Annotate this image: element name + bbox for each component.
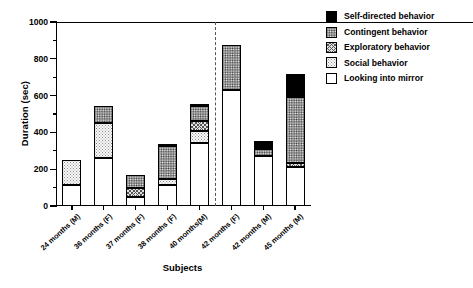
bar-stack xyxy=(94,106,113,206)
bar-segment-social-behavior xyxy=(190,131,209,144)
bar-segment-looking-into-mirror xyxy=(190,143,209,206)
bar-segment-looking-into-mirror xyxy=(94,158,113,206)
legend-item-label: Social behavior xyxy=(344,59,408,68)
bar-segment-social-behavior xyxy=(62,160,81,185)
bar-segment-looking-into-mirror xyxy=(126,197,145,206)
x-axis-tick xyxy=(167,206,168,210)
swatch-social xyxy=(326,57,337,68)
x-axis-tick xyxy=(231,206,232,210)
bar-stack xyxy=(126,175,145,206)
bar-stack xyxy=(222,45,241,206)
bar-segment-looking-into-mirror xyxy=(62,185,81,206)
x-axis-tick xyxy=(263,206,264,210)
bar-segment-contingent-behavior xyxy=(126,175,145,188)
swatch-looking-into-mirror xyxy=(326,73,337,84)
bar-stack xyxy=(158,144,177,206)
bar-segment-looking-into-mirror xyxy=(254,156,273,206)
bar-segment-looking-into-mirror xyxy=(286,167,305,206)
swatch-exploratory xyxy=(326,42,337,53)
swatch-self-directed xyxy=(326,11,337,22)
bar-segment-self-directed-behavior xyxy=(158,144,177,146)
x-axis-tick xyxy=(135,206,136,210)
x-axis-title: Subjects xyxy=(55,262,310,273)
chart-legend: Self-directed behaviorContingent behavio… xyxy=(326,9,470,86)
legend-item[interactable]: Contingent behavior xyxy=(326,24,470,39)
bar-stack xyxy=(62,160,81,206)
legend-item[interactable]: Self-directed behavior xyxy=(326,9,470,24)
bar-segment-exploratory-behavior xyxy=(286,163,305,168)
bar-segment-contingent-behavior xyxy=(254,149,273,156)
x-axis-tick xyxy=(103,206,104,210)
bar-segment-contingent-behavior xyxy=(158,146,177,179)
bar-segment-contingent-behavior xyxy=(94,106,113,123)
bar-stack xyxy=(254,141,273,206)
legend-item[interactable]: Looking into mirror xyxy=(326,71,470,86)
legend-item[interactable]: Exploratory behavior xyxy=(326,40,470,55)
legend-item-label: Exploratory behavior xyxy=(344,43,430,52)
bar-segment-self-directed-behavior xyxy=(286,74,305,96)
group-divider-line xyxy=(215,22,216,206)
legend-item-label: Contingent behavior xyxy=(344,28,428,37)
bar-segment-contingent-behavior xyxy=(222,45,241,90)
bar-segment-self-directed-behavior xyxy=(190,104,209,106)
legend-item-label: Looking into mirror xyxy=(344,74,423,83)
x-axis-tick xyxy=(71,206,72,210)
swatch-contingent xyxy=(326,27,337,38)
bar-segment-contingent-behavior xyxy=(286,97,305,163)
bar-segment-exploratory-behavior xyxy=(126,188,145,197)
bar-segment-looking-into-mirror xyxy=(158,185,177,206)
bar-segment-looking-into-mirror xyxy=(222,90,241,206)
bar-stack xyxy=(190,104,209,206)
x-axis-tick xyxy=(199,206,200,210)
bar-segment-contingent-behavior xyxy=(190,106,209,122)
bar-chart-figure: Duration (sec) 02004006008001000 24 mont… xyxy=(0,0,473,288)
x-axis-tick xyxy=(294,206,295,210)
bar-segment-self-directed-behavior xyxy=(254,141,273,149)
legend-item[interactable]: Social behavior xyxy=(326,55,470,70)
bar-segment-social-behavior xyxy=(94,123,113,158)
bar-stack xyxy=(286,74,305,206)
legend-item-label: Self-directed behavior xyxy=(344,12,434,21)
bar-segment-social-behavior xyxy=(158,179,177,185)
bar-segment-exploratory-behavior xyxy=(190,121,209,130)
